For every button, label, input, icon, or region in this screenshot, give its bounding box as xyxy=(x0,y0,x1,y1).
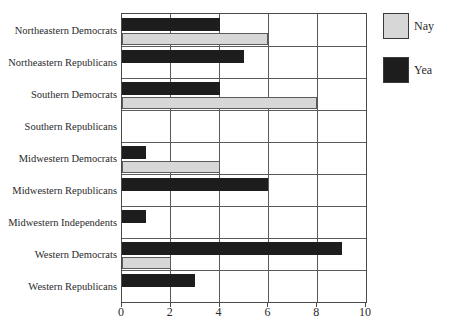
bar-yea xyxy=(122,82,220,95)
bar-chart-figure: Northeastern DemocratsNortheastern Repub… xyxy=(0,0,453,334)
horizontal-gridline xyxy=(122,206,366,207)
yea-swatch-icon xyxy=(383,57,409,83)
bar-nay xyxy=(122,97,317,109)
horizontal-gridline xyxy=(122,110,366,111)
legend: Nay Yea xyxy=(383,13,449,101)
horizontal-gridline xyxy=(122,46,366,47)
vertical-gridline xyxy=(317,14,318,302)
plot-area xyxy=(121,13,367,303)
bar-yea xyxy=(122,242,342,255)
x-tick-label: 10 xyxy=(359,305,371,320)
category-label: Western Republicans xyxy=(5,281,117,292)
x-tick-label: 2 xyxy=(167,305,173,320)
legend-label-nay: Nay xyxy=(414,19,434,34)
horizontal-gridline xyxy=(122,142,366,143)
legend-label-yea: Yea xyxy=(414,63,432,78)
horizontal-gridline xyxy=(122,238,366,239)
bar-yea xyxy=(122,178,268,191)
nay-swatch-icon xyxy=(383,13,409,39)
bar-yea xyxy=(122,274,195,287)
category-label: Southern Republicans xyxy=(5,121,117,132)
x-tick-label: 4 xyxy=(216,305,222,320)
category-label: Southern Democrats xyxy=(5,89,117,100)
vertical-gridline xyxy=(268,14,269,302)
category-label: Western Democrats xyxy=(5,249,117,260)
legend-entry-nay: Nay xyxy=(383,13,449,39)
category-label: Midwestern Independents xyxy=(5,217,117,228)
legend-entry-yea: Yea xyxy=(383,57,449,83)
horizontal-gridline xyxy=(122,270,366,271)
bar-yea xyxy=(122,50,244,63)
bar-yea xyxy=(122,210,146,223)
category-label: Midwestern Republicans xyxy=(5,185,117,196)
bar-yea xyxy=(122,146,146,159)
x-tick-label: 8 xyxy=(313,305,319,320)
category-label: Northeastern Democrats xyxy=(5,25,117,36)
category-label: Northeastern Republicans xyxy=(5,57,117,68)
x-tick-label: 6 xyxy=(264,305,270,320)
horizontal-gridline xyxy=(122,174,366,175)
bar-nay xyxy=(122,257,171,269)
bar-nay xyxy=(122,161,220,173)
x-tick-label: 0 xyxy=(118,305,124,320)
bar-nay xyxy=(122,33,268,45)
bar-yea xyxy=(122,18,220,31)
horizontal-gridline xyxy=(122,78,366,79)
category-label: Midwestern Democrats xyxy=(5,153,117,164)
